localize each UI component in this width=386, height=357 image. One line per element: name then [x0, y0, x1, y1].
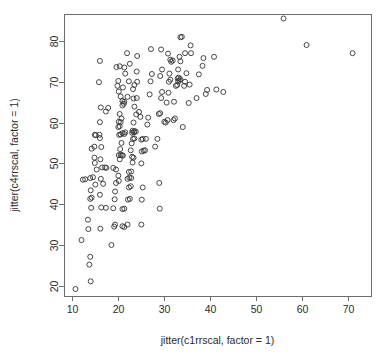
y-axis-tick-label: 30	[48, 240, 60, 252]
scatter-plot-figure: 10203040506070 20304050607080 jitter(c1r…	[0, 0, 386, 357]
x-axis-tick-label: 60	[297, 303, 309, 315]
y-axis-title: jitter(c4rrscal, factor = 1)	[8, 98, 20, 213]
y-axis-tick-label: 70	[48, 77, 60, 89]
y-axis-tick-label: 80	[48, 36, 60, 48]
x-axis-tick-label: 70	[343, 303, 355, 315]
figure-background	[0, 0, 386, 357]
x-axis-tick-label: 50	[251, 303, 263, 315]
x-axis-title: jitter(c1rrscal, factor = 1)	[160, 334, 275, 346]
y-axis-tick-label: 40	[48, 199, 60, 211]
plot-canvas: 10203040506070 20304050607080 jitter(c1r…	[0, 0, 386, 357]
y-axis-tick-label: 20	[48, 281, 60, 293]
x-axis-tick-label: 20	[113, 303, 125, 315]
x-axis-tick-label: 40	[205, 303, 217, 315]
y-axis-tick-label: 50	[48, 158, 60, 170]
x-axis-tick-label: 10	[67, 303, 79, 315]
x-axis-tick-label: 30	[159, 303, 171, 315]
y-axis-tick-label: 60	[48, 118, 60, 130]
